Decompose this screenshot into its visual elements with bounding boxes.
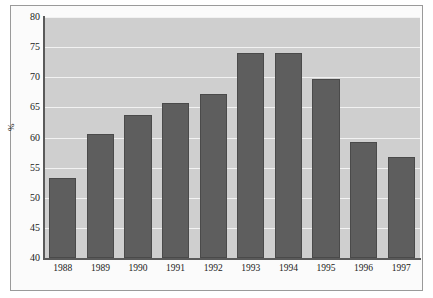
y-axis-tick-label: 65 xyxy=(6,102,40,112)
gridline xyxy=(44,17,420,18)
plot-area xyxy=(44,17,420,258)
x-axis-tick-label: 1988 xyxy=(44,263,82,273)
bar-chart-figure: 404550556065707580 % 1988198919901991199… xyxy=(0,0,433,298)
x-axis-line xyxy=(43,258,421,260)
x-axis-tick-label: 1990 xyxy=(119,263,157,273)
y-axis-tick-label: 75 xyxy=(6,42,40,52)
gridline xyxy=(44,47,420,48)
bar xyxy=(200,94,227,258)
gridline xyxy=(44,77,420,78)
y-axis-line xyxy=(43,16,45,259)
bar xyxy=(275,53,302,258)
bar xyxy=(237,53,264,258)
bar xyxy=(162,103,189,258)
bar xyxy=(49,178,76,258)
gridline xyxy=(44,107,420,108)
bar xyxy=(388,157,415,258)
bar xyxy=(350,142,377,258)
x-axis-tick-label: 1995 xyxy=(307,263,345,273)
x-axis-tick-label: 1989 xyxy=(82,263,120,273)
x-axis-tick-label: 1991 xyxy=(157,263,195,273)
y-axis-tick-label: 45 xyxy=(6,223,40,233)
y-axis-tick-label: 55 xyxy=(6,163,40,173)
y-axis-tick-label: 70 xyxy=(6,72,40,82)
bar xyxy=(87,134,114,258)
x-axis-tick-label: 1997 xyxy=(382,263,420,273)
x-axis-tick-label: 1993 xyxy=(232,263,270,273)
y-axis-tick-label: 60 xyxy=(6,133,40,143)
y-axis-tick-label: 40 xyxy=(6,253,40,263)
x-axis-tick-label: 1996 xyxy=(345,263,383,273)
bar xyxy=(124,115,151,258)
x-axis-tick-label: 1992 xyxy=(194,263,232,273)
y-axis-tick-label: 50 xyxy=(6,193,40,203)
bar xyxy=(312,79,339,258)
x-axis-tick-label: 1994 xyxy=(270,263,308,273)
y-axis-tick-labels: 404550556065707580 xyxy=(2,0,40,298)
y-axis-tick-label: 80 xyxy=(6,12,40,22)
y-axis-title: % xyxy=(6,124,16,132)
